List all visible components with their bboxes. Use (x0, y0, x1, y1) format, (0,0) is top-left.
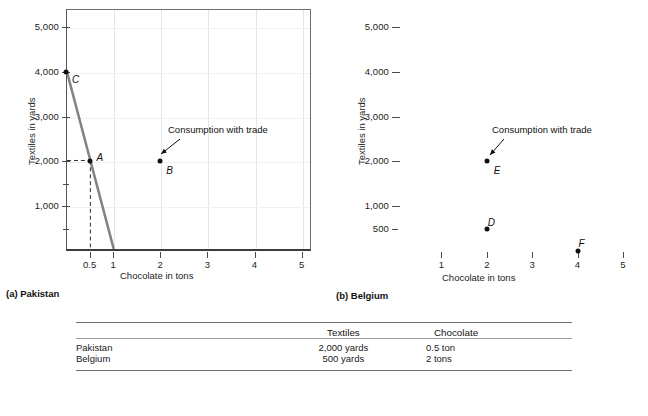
y-tick-label-3000: 3,000 (336, 111, 389, 122)
cell-country-pakistan: Pakistan (76, 342, 261, 353)
annotation-arrow (330, 0, 648, 300)
y-tick-label-5000: 5,000 (6, 21, 59, 32)
summary-table-wrapper: Textiles Chocolate Pakistan 2,000 yards … (76, 322, 572, 374)
y-tick-minor-500 (63, 229, 69, 230)
x-tick-label-2: 2 (472, 259, 502, 270)
x-tick-label-1: 1 (98, 259, 128, 270)
x-tick-label-5: 5 (287, 259, 317, 270)
y-tick-label-4000: 4,000 (6, 66, 59, 77)
cell-textiles-belgium: 500 yards (261, 353, 426, 364)
x-tick-4 (255, 252, 256, 258)
table-header-row: Textiles Chocolate (76, 327, 572, 339)
table-rule-bottom (76, 371, 572, 375)
x-tick-label-2: 2 (145, 259, 175, 270)
y-tick-3000 (392, 117, 400, 118)
point-label-d: D (488, 217, 495, 228)
y-tick-label-3000: 3,000 (6, 111, 59, 122)
y-tick-4000 (392, 72, 400, 73)
y-tick-500 (392, 229, 398, 230)
x-tick-0.5 (90, 252, 91, 258)
y-tick-1000 (392, 206, 400, 207)
x-tick-1 (441, 252, 442, 258)
y-tick-2000 (392, 161, 400, 162)
cell-country-belgium: Belgium (76, 353, 261, 364)
y-tick-2000 (62, 161, 70, 162)
data-point-e (484, 159, 489, 164)
y-tick-label-4000: 4,000 (336, 66, 389, 77)
x-tick-2 (487, 252, 488, 258)
y-tick-label-5000: 5,000 (336, 21, 389, 32)
x-tick-label-1: 1 (426, 259, 456, 270)
annotation-consumption-with-trade: Consumption with trade (168, 124, 268, 135)
y-tick-5000 (392, 27, 400, 28)
x-tick-1 (113, 252, 114, 258)
caption-panel-b: (b) Belgium (336, 290, 388, 301)
data-point-b (158, 159, 163, 164)
consumption-table: Textiles Chocolate Pakistan 2,000 yards … (76, 322, 572, 374)
y-tick-minor-1500 (63, 184, 69, 185)
caption-panel-a: (a) Pakistan (6, 288, 59, 299)
point-label-e: E (494, 165, 501, 176)
x-tick-5 (623, 252, 624, 258)
x-tick-5 (302, 252, 303, 258)
panel-pakistan: Textiles in yards 1,0002,0003,0004,0005,… (0, 0, 330, 300)
y-tick-5000 (62, 27, 70, 28)
y-tick-3000 (62, 117, 70, 118)
x-axis-title-pakistan: Chocolate in tons (120, 270, 193, 281)
point-label-f: F (579, 238, 585, 249)
data-point-c (64, 69, 69, 74)
cell-chocolate-belgium: 2 tons (426, 353, 572, 364)
y-tick-label-2000: 2,000 (336, 155, 389, 166)
point-label-a: A (97, 152, 104, 163)
x-tick-label-5: 5 (608, 259, 638, 270)
x-tick-2 (160, 252, 161, 258)
x-tick-3 (532, 252, 533, 258)
table-header-chocolate: Chocolate (426, 327, 572, 339)
x-tick-label-4: 4 (563, 259, 593, 270)
table-row: Pakistan 2,000 yards 0.5 ton (76, 342, 572, 353)
data-point-a (87, 159, 92, 164)
panel-belgium: Textiles in yards 5001,0002,0003,0004,00… (330, 0, 648, 300)
x-tick-label-3: 3 (192, 259, 222, 270)
x-tick-label-3: 3 (517, 259, 547, 270)
x-axis-title-belgium: Chocolate in tons (442, 272, 515, 283)
cell-chocolate-pakistan: 0.5 ton (426, 342, 572, 353)
y-tick-1000 (62, 206, 70, 207)
data-point-f (575, 249, 580, 254)
x-tick-3 (207, 252, 208, 258)
y-tick-label-500: 500 (336, 223, 389, 234)
annotation-consumption-with-trade: Consumption with trade (492, 124, 592, 135)
y-tick-label-1000: 1,000 (6, 200, 59, 211)
x-tick-label-4: 4 (240, 259, 270, 270)
table-header-textiles: Textiles (261, 327, 426, 339)
table-row: Belgium 500 yards 2 tons (76, 353, 572, 364)
table-header-blank (76, 327, 261, 339)
cell-textiles-pakistan: 2,000 yards (261, 342, 426, 353)
y-tick-label-2000: 2,000 (6, 155, 59, 166)
point-label-c: C (72, 74, 79, 85)
point-label-b: B (166, 165, 173, 176)
y-tick-label-1000: 1,000 (336, 200, 389, 211)
